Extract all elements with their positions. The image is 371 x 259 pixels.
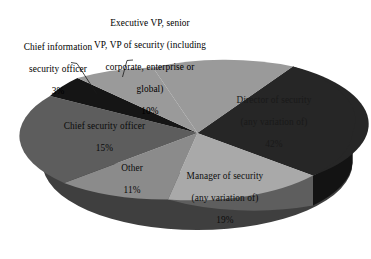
slice-label-exec-vp-line3: corporate, enterprise or [106,62,195,72]
slice-label-exec-vp-line4: global) [136,84,163,94]
pie-chart-figure: Executive VP, senior VP, VP of security … [0,0,371,259]
slice-label-ciso: Chief information security officer 3% [6,31,110,108]
slice-label-ciso-line1: Chief information [24,42,93,52]
slice-label-manager-line1: Manager of security [187,171,264,181]
slice-label-ciso-line2: security officer [29,64,87,74]
slice-percent-ciso: 3% [6,86,110,97]
slice-label-director-line1: Director of security [237,95,312,105]
slice-label-exec-vp-line1: Executive VP, senior [110,18,190,28]
slice-percent-other: 11% [96,185,168,196]
slice-percent-director: 42% [218,139,330,150]
slice-label-cso-line1: Chief security officer [64,121,146,131]
slice-percent-manager: 19% [170,215,280,226]
slice-label-director: Director of security (any variation of) … [218,84,330,161]
slice-label-manager-line2: (any variation of) [192,193,259,203]
slice-label-manager: Manager of security (any variation of) 1… [170,160,280,237]
slice-label-exec-vp-line2: VP, VP of security (including [94,40,206,50]
slice-label-other: Other 11% [96,152,168,207]
slice-label-other-line1: Other [121,163,143,173]
slice-label-director-line2: (any variation of) [241,117,308,127]
